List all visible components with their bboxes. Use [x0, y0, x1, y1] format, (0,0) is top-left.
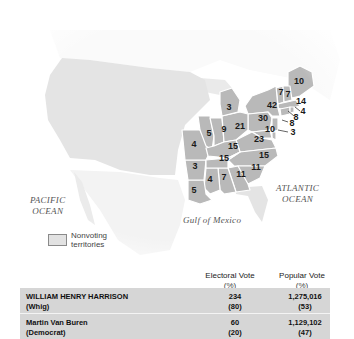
ev-label-alabama: 7	[221, 172, 226, 182]
nonvoting-swatch	[48, 234, 67, 246]
ev-label-illinois: 5	[206, 128, 211, 138]
ev-label-mississippi: 4	[207, 174, 212, 184]
ev-label-tennessee: 15	[219, 153, 229, 163]
pacific-ocean-label: PACIFIC OCEAN	[30, 195, 65, 217]
ev-label-north-carolina: 15	[259, 150, 269, 160]
ev-label-rhode-island: 4	[300, 106, 305, 116]
pacific-label-line1: PACIFIC	[30, 195, 65, 206]
electoral-vote-cell: 60 (20)	[210, 318, 260, 338]
candidate-name: WILLIAM HENRY HARRISON	[26, 292, 128, 302]
electoral-vote-cell: 234 (80)	[210, 292, 260, 312]
map-legend: Nonvoting territories	[48, 231, 111, 249]
table-row: WILLIAM HENRY HARRISON (Whig) 234 (80) 1…	[20, 288, 330, 313]
table-row: Martin Van Buren (Democrat) 60 (20) 1,12…	[20, 314, 330, 339]
electoral-vote-value: 234	[210, 292, 260, 302]
popular-vote-pct: (53)	[275, 302, 335, 312]
ev-label-louisiana: 5	[191, 185, 196, 195]
pacific-label-line2: OCEAN	[30, 206, 65, 217]
ev-label-massachusetts: 14	[296, 96, 306, 106]
electoral-vote-pct: (20)	[210, 328, 260, 338]
ev-label-delaware: 3	[290, 127, 295, 137]
results-table: WILLIAM HENRY HARRISON (Whig) 234 (80) 1…	[20, 288, 330, 339]
ev-label-michigan: 3	[226, 102, 231, 112]
ev-label-georgia: 11	[236, 169, 246, 179]
ev-label-new-hampshire: 7	[285, 89, 290, 99]
ev-label-virginia: 23	[254, 134, 264, 144]
atlantic-label-line1: ATLANTIC	[276, 183, 319, 194]
electoral-vote-value: 60	[210, 318, 260, 328]
ev-label-maine: 10	[294, 76, 304, 86]
ev-label-indiana: 9	[221, 124, 226, 134]
legend-label-line2: territories	[71, 240, 111, 249]
ev-label-missouri: 4	[191, 139, 196, 149]
candidate-party: (Democrat)	[26, 328, 88, 338]
gulf-of-mexico-label: Gulf of Mexico	[183, 215, 241, 226]
candidate-cell: Martin Van Buren (Democrat)	[26, 318, 88, 338]
legend-label-line1: Nonvoting	[71, 231, 111, 240]
candidate-party: (Whig)	[26, 302, 128, 312]
header-electoral-label: Electoral Vote	[198, 271, 262, 281]
popular-vote-cell: 1,129,102 (47)	[275, 318, 335, 338]
popular-vote-value: 1,275,016	[275, 292, 335, 302]
ev-label-new-york: 42	[267, 100, 277, 110]
popular-vote-pct: (47)	[275, 328, 335, 338]
popular-vote-value: 1,129,102	[275, 318, 335, 328]
candidate-name: Martin Van Buren	[26, 318, 88, 328]
atlantic-ocean-label: ATLANTIC OCEAN	[276, 183, 319, 205]
legend-label: Nonvoting territories	[71, 231, 111, 249]
electoral-vote-pct: (80)	[210, 302, 260, 312]
ev-label-arkansas: 3	[192, 161, 197, 171]
candidate-cell: WILLIAM HENRY HARRISON (Whig)	[26, 292, 128, 312]
header-popular-label: Popular Vote	[270, 271, 334, 281]
ev-label-maryland: 10	[265, 124, 275, 134]
ev-label-kentucky: 15	[228, 141, 238, 151]
ev-label-south-carolina: 11	[251, 162, 261, 172]
map-vignette	[0, 0, 354, 260]
ev-label-ohio: 21	[235, 121, 245, 131]
ev-label-pennsylvania: 30	[258, 113, 268, 123]
popular-vote-cell: 1,275,016 (53)	[275, 292, 335, 312]
election-map: 10 7 7 14 4 8 8 3 42 30 10 23 15 11 11 7…	[0, 0, 354, 260]
atlantic-label-line2: OCEAN	[276, 194, 319, 205]
ev-label-vermont: 7	[278, 87, 283, 97]
